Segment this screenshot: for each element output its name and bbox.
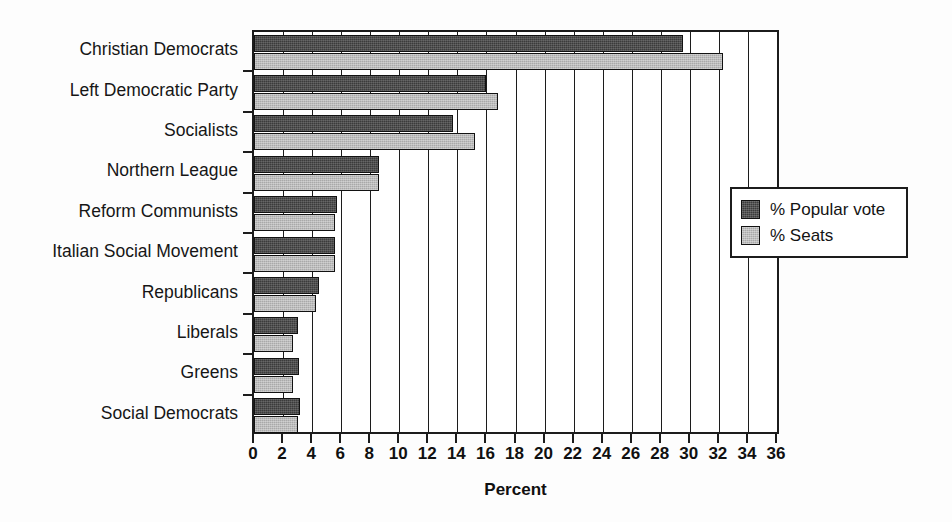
bar-group (254, 315, 777, 355)
category-label: Social Democrats (101, 405, 238, 423)
x-axis-tick (746, 434, 748, 443)
category-label: Northern League (107, 162, 238, 180)
bar-chart: Christian DemocratsLeft Democratic Party… (0, 0, 952, 522)
x-axis-tick (252, 434, 254, 443)
category-label: Republicans (142, 284, 238, 302)
x-axis-tick (455, 434, 457, 443)
x-axis-tick-label: 20 (534, 445, 553, 462)
x-axis-tick-label: 36 (767, 445, 786, 462)
legend-item-seats: % Seats (741, 222, 897, 248)
bar (254, 75, 486, 92)
x-axis-tick-label: 32 (708, 445, 727, 462)
bar (254, 317, 298, 334)
x-axis-tick (630, 434, 632, 443)
bar-group (254, 355, 777, 395)
legend-label-seats: % Seats (770, 227, 833, 244)
x-axis-tick (397, 434, 399, 443)
x-axis-tick-label: 26 (621, 445, 640, 462)
x-axis-tick (717, 434, 719, 443)
x-axis-tick-label: 10 (389, 445, 408, 462)
category-tick (243, 313, 252, 315)
x-axis-tick (281, 434, 283, 443)
category-axis-labels: Christian DemocratsLeft Democratic Party… (0, 30, 246, 434)
x-axis-tick (572, 434, 574, 443)
bar (254, 53, 723, 70)
x-axis-tick (543, 434, 545, 443)
x-axis-tick-label: 22 (563, 445, 582, 462)
bar (254, 295, 316, 312)
x-axis-tick-label: 4 (306, 445, 315, 462)
category-tick (243, 272, 252, 274)
bar-group (254, 396, 777, 436)
x-axis-tick (310, 434, 312, 443)
bar (254, 156, 379, 173)
category-tick (243, 70, 252, 72)
bar (254, 335, 293, 352)
bar (254, 376, 293, 393)
bar (254, 255, 335, 272)
x-axis-title: Percent (252, 480, 779, 500)
category-tick (243, 192, 252, 194)
chart-legend: % Popular vote % Seats (730, 187, 908, 258)
bar (254, 196, 337, 213)
x-axis-tick (775, 434, 777, 443)
x-axis-tick-label: 6 (335, 445, 344, 462)
x-axis-tick-label: 8 (364, 445, 373, 462)
x-axis-tick (688, 434, 690, 443)
bar (254, 133, 475, 150)
category-label: Christian Democrats (79, 41, 238, 59)
legend-label-popular-vote: % Popular vote (770, 201, 885, 218)
category-label: Italian Social Movement (52, 243, 238, 261)
plot-area (252, 30, 779, 434)
category-label: Left Democratic Party (70, 82, 238, 100)
category-label: Reform Communists (79, 203, 238, 221)
bar (254, 115, 453, 132)
category-tick (243, 353, 252, 355)
value-axis: 024681012141618202224262830323436 (252, 434, 779, 474)
bar-group (254, 234, 777, 274)
x-axis-tick (339, 434, 341, 443)
category-tick (243, 111, 252, 113)
x-axis-tick-label: 14 (447, 445, 466, 462)
bar (254, 93, 498, 110)
bar (254, 277, 319, 294)
category-label: Greens (181, 364, 238, 382)
bar (254, 35, 683, 52)
bar-series-container (254, 32, 777, 432)
category-axis-ticks (243, 30, 252, 434)
bar (254, 398, 300, 415)
bar-group (254, 153, 777, 193)
bar-group (254, 32, 777, 72)
x-axis-tick-label: 16 (476, 445, 495, 462)
bar (254, 214, 335, 231)
bar (254, 416, 298, 433)
bar-group (254, 72, 777, 112)
bar-group (254, 194, 777, 234)
x-axis-tick-label: 34 (737, 445, 756, 462)
x-axis-tick (659, 434, 661, 443)
legend-swatch-popular-vote-icon (741, 200, 760, 219)
x-axis-tick-label: 0 (248, 445, 257, 462)
bar (254, 237, 335, 254)
x-axis-tick-label: 30 (679, 445, 698, 462)
x-axis-tick (368, 434, 370, 443)
category-tick (243, 151, 252, 153)
category-label: Liberals (177, 324, 238, 342)
bar-group (254, 113, 777, 153)
x-axis-tick-label: 24 (592, 445, 611, 462)
x-axis-tick (514, 434, 516, 443)
bar (254, 174, 379, 191)
bar (254, 358, 299, 375)
x-axis-tick-label: 18 (505, 445, 524, 462)
legend-item-popular-vote: % Popular vote (741, 196, 897, 222)
x-axis-tick (601, 434, 603, 443)
x-axis-tick (484, 434, 486, 443)
bar-group (254, 274, 777, 314)
x-axis-tick-label: 2 (277, 445, 286, 462)
legend-swatch-seats-icon (741, 226, 760, 245)
x-axis-tick-label: 28 (650, 445, 669, 462)
x-axis-tick-label: 12 (418, 445, 437, 462)
category-tick (243, 394, 252, 396)
category-tick (243, 232, 252, 234)
category-label: Socialists (164, 122, 238, 140)
